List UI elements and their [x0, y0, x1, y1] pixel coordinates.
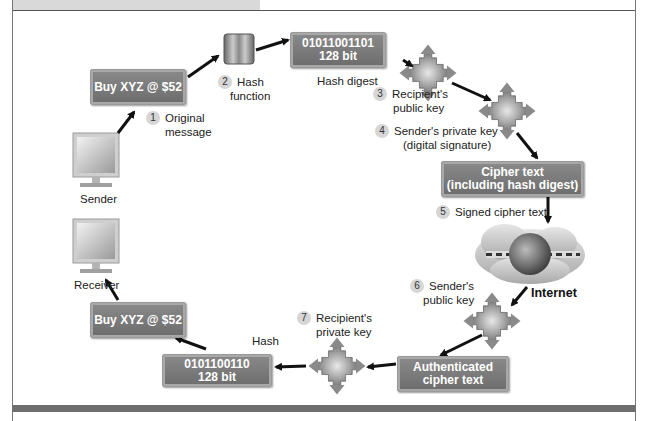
step-2-label: 2Hash function [218, 75, 270, 103]
original-message-text: Buy XYZ @ $52 [91, 81, 185, 94]
cipher-text-subtitle: (including hash digest) [442, 179, 583, 192]
receiver-monitor-icon [73, 219, 119, 273]
authenticated-subtitle: cipher text [398, 374, 508, 387]
step-3-label: 3Recipient's public key [373, 87, 448, 115]
hash-digest-box: 01011001101 128 bit [290, 32, 386, 68]
original-message-box: Buy XYZ @ $52 [90, 69, 186, 105]
hash-result-box: 0101100110 128 bit [162, 354, 272, 387]
step-2-badge: 2 [218, 75, 232, 89]
arrow-sender-to-message [118, 112, 134, 133]
received-message-text: Buy XYZ @ $52 [91, 314, 185, 327]
recipient-private-key-icon [309, 338, 366, 395]
sender-monitor-icon [73, 133, 119, 187]
step-3-badge: 3 [373, 87, 387, 101]
step-6-line1: Sender's [429, 280, 474, 292]
step-6-label: 6Sender's public key [410, 279, 474, 307]
step-5-label: 5Signed cipher text [436, 205, 547, 219]
step-2-line2: function [230, 90, 270, 102]
step-4-line2: (digital signature) [403, 139, 491, 151]
internet-cloud-globe-icon [475, 224, 585, 284]
receiver-label: Receiver [74, 278, 119, 292]
hash-result-caption: Hash [252, 334, 279, 348]
step-2-line1: Hash [237, 76, 264, 88]
step-4-line1: Sender's private key [394, 125, 498, 137]
received-message-box: Buy XYZ @ $52 [90, 302, 186, 338]
step-7-badge: 7 [297, 311, 311, 325]
step-3-line1: Recipient's [392, 88, 448, 100]
step-1-line2: message [165, 126, 212, 138]
step-3-line2: public key [393, 102, 444, 114]
cipher-text-box: Cipher text (including hash digest) [441, 161, 584, 197]
step-6-badge: 6 [410, 279, 424, 293]
hash-result-bits: 0101100110 [163, 358, 271, 371]
step-4-badge: 4 [375, 124, 389, 138]
sender-label: Sender [80, 192, 117, 206]
authenticated-cipher-box: Authenticated cipher text [397, 356, 509, 392]
step-1-line1: Original [165, 112, 205, 124]
hash-function-cylinder-icon [224, 34, 254, 64]
step-1-label: 1Original message [146, 111, 212, 139]
hash-digest-caption: Hash digest [317, 74, 378, 88]
step-7-line1: Recipient's [316, 312, 372, 324]
step-5-line1: Signed cipher text [455, 206, 547, 218]
step-7-label: 7Recipient's private key [297, 311, 372, 339]
internet-label: Internet [531, 286, 577, 300]
step-7-line2: private key [316, 326, 372, 338]
hash-result-size: 128 bit [163, 371, 271, 384]
hash-digest-size: 128 bit [291, 50, 385, 63]
step-5-badge: 5 [436, 205, 450, 219]
step-6-line2: public key [423, 294, 474, 306]
step-1-badge: 1 [146, 111, 160, 125]
step-4-label: 4Sender's private key (digital signature… [375, 124, 498, 152]
